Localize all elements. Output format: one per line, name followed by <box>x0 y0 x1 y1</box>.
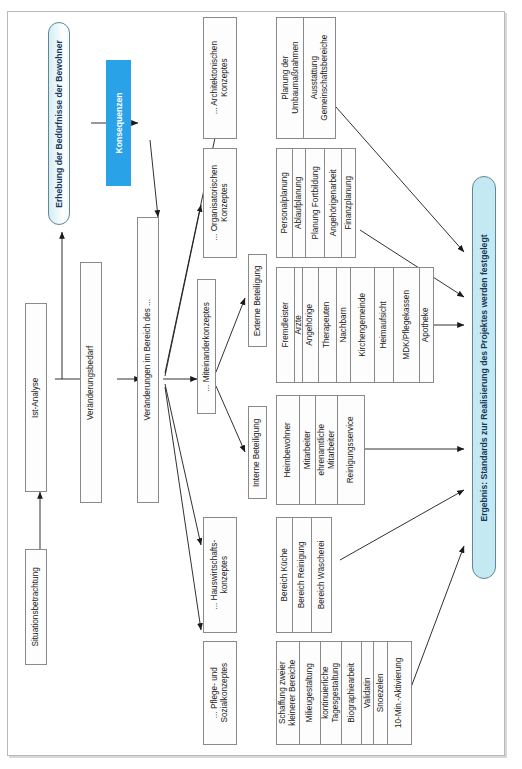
pflege-sozial-massnahmen-liste-item-label: Snoezelen <box>375 674 385 713</box>
architektur-massnahmen-gruppe-item-label: Ausstattung Gemeinschaftsbereiche <box>310 35 329 121</box>
externe-beteiligung-liste-item-label: Angehörige <box>306 304 316 346</box>
pflege-sozial-massnahmen-liste-item-label: Schaffung zweier kleinerer Bereiche <box>278 660 297 726</box>
pflege-sozial-massnahmen-liste-item[interactable]: kontinuierliche Tagesgestaltung <box>321 642 342 744</box>
organisation-massnahmen-gruppe-item[interactable]: Angehörigenarbeit <box>325 149 342 257</box>
node-externe-beteiligung[interactable]: Externe Beteiligung <box>248 254 267 347</box>
externe-beteiligung-liste-item-label: Apotheke <box>422 308 432 343</box>
externe-beteiligung-liste-item[interactable]: Fremdleister <box>277 268 295 382</box>
node-konsequenzen-label: Konsequenzen <box>114 92 124 153</box>
group-pflege-sozial-massnahmen[interactable]: Schaffung zweier kleinerer BereicheMilie… <box>276 641 412 745</box>
node-situationsbetrachtung-label: Situationsbetrachtung <box>31 567 41 646</box>
externe-beteiligung-liste-item-label: Kirchengemeinde <box>358 293 368 357</box>
node-ergebnis[interactable]: Ergebnis: Standards zur Realisierung des… <box>472 176 496 579</box>
pflege-sozial-massnahmen-liste-item[interactable]: Biographiearbeit <box>342 642 363 744</box>
interne-beteiligung-liste-item-label: Mitarbeiter <box>303 431 313 470</box>
externe-beteiligung-liste-item-label: Heimaufsicht <box>379 301 389 348</box>
organisation-massnahmen-gruppe-item-label: Personalplanung <box>280 172 290 233</box>
hauswirtschaft-bereiche-liste-item-label: Bereich Reinigung <box>297 542 307 609</box>
externe-beteiligung-liste-item-label: Nachbarn <box>339 307 349 343</box>
node-erhebung-label: Erhebung der Bedürfnisse der Bewohner <box>54 40 64 208</box>
organisation-massnahmen-gruppe-item[interactable]: Planung Fortbildung <box>306 149 325 257</box>
interne-beteiligung-liste-item[interactable]: Heimbewohner <box>277 396 300 504</box>
interne-beteiligung-liste-item-label: Heimbewohner <box>283 422 293 477</box>
organisation-massnahmen-gruppe-item-label: Finanzplanung <box>344 176 354 230</box>
externe-beteiligung-liste-item[interactable]: Angehörige <box>303 268 319 382</box>
interne-beteiligung-liste-item[interactable]: Mitarbeiter <box>300 396 316 504</box>
node-miteinanderkonzept-label: ... Miteinanderkonzeptes <box>202 302 212 391</box>
externe-beteiligung-liste-item-label: Ärzte <box>295 315 303 334</box>
externe-beteiligung-liste-item[interactable]: MDK/Pflegekassen <box>394 268 421 382</box>
organisation-massnahmen-gruppe-item[interactable]: Finanzplanung <box>342 149 355 257</box>
diagram-canvas: Erhebung der Bedürfnisse der Bewohner Ko… <box>0 0 522 769</box>
architektur-massnahmen-gruppe-item[interactable]: Ausstattung Gemeinschaftsbereiche <box>304 18 335 138</box>
externe-beteiligung-liste-item[interactable]: Nachbarn <box>337 268 351 382</box>
externe-beteiligung-liste-item[interactable]: Apotheke <box>420 268 433 382</box>
pflege-sozial-massnahmen-liste-item[interactable]: Validatin <box>362 642 373 744</box>
hauswirtschaft-bereiche-liste-item-label: Bereich Wäscherei <box>317 541 327 610</box>
node-interne-beteiligung-label: Interne Beteiligung <box>253 418 263 486</box>
hauswirtschaft-bereiche-liste-item[interactable]: Bereich Reinigung <box>293 518 312 632</box>
group-hauswirtschaft-bereiche[interactable]: Bereich KücheBereich ReinigungBereich Wä… <box>276 517 332 633</box>
pflege-sozial-massnahmen-liste-item-label: kontinuierliche Tagesgestaltung <box>321 663 340 723</box>
pflege-sozial-massnahmen-liste-item-label: Biographiearbeit <box>347 663 357 723</box>
organisation-massnahmen-gruppe-item-label: Angehörigenarbeit <box>328 170 338 237</box>
node-veraenderungsbedarf[interactable]: Veränderungsbedarf <box>80 262 102 503</box>
externe-beteiligung-liste-item[interactable]: Ärzte <box>295 268 303 382</box>
externe-beteiligung-liste-item-label: MDK/Pflegekassen <box>402 290 412 360</box>
node-ergebnis-label: Ergebnis: Standards zur Realisierung des… <box>479 234 489 521</box>
node-pflege-sozial-konzept[interactable]: ... Pflege- und Sozialkonzeptes <box>203 641 237 745</box>
pflege-sozial-massnahmen-liste-item[interactable]: 10-Min.-Aktivierung <box>388 642 411 744</box>
node-externe-beteiligung-label: Externe Beteiligung <box>253 265 263 336</box>
group-architektur-massnahmen[interactable]: Planung der UmbaumaßnahmenAusstattung Ge… <box>276 17 336 139</box>
group-externe-beteiligung[interactable]: FremdleisterÄrzteAngehörigeTherapeutenNa… <box>276 267 434 383</box>
node-architektonisches-konzept-label: ... Architektonischen Konzeptes <box>210 41 229 114</box>
node-veraenderungen-bereich[interactable]: Veränderungen im Bereich des ... <box>137 217 159 503</box>
hauswirtschaft-bereiche-liste-item-label: Bereich Küche <box>280 548 290 601</box>
node-miteinanderkonzept[interactable]: ... Miteinanderkonzeptes <box>197 279 216 414</box>
hauswirtschaft-bereiche-liste-item[interactable]: Bereich Küche <box>277 518 293 632</box>
pflege-sozial-massnahmen-liste-item-label: 10-Min.-Aktivierung <box>394 658 404 729</box>
interne-beteiligung-liste-item-label: ehrenamtliche Mitarbeiter <box>317 424 336 475</box>
externe-beteiligung-liste-item-label: Fremdleister <box>281 302 291 348</box>
node-ist-analyse-label: Ist-Analyse <box>31 377 41 418</box>
node-architektonisches-konzept[interactable]: ... Architektonischen Konzeptes <box>203 17 237 139</box>
node-veraenderungen-bereich-label: Veränderungen im Bereich des ... <box>143 299 153 421</box>
organisation-massnahmen-gruppe-item[interactable]: Personalplanung <box>277 149 293 257</box>
externe-beteiligung-liste-item[interactable]: Kirchengemeinde <box>351 268 375 382</box>
node-veraenderungsbedarf-label: Veränderungsbedarf <box>86 345 96 419</box>
node-hauswirtschaftskonzept-label: ... Hauswirtschafts- konzeptes <box>210 540 229 610</box>
organisation-massnahmen-gruppe-item-label: Ablaufplanung <box>294 177 304 229</box>
pflege-sozial-massnahmen-liste-item-label: Validatin <box>363 678 373 709</box>
pflege-sozial-massnahmen-liste-item[interactable]: Milieugestaltung <box>300 642 321 744</box>
node-hauswirtschaftskonzept[interactable]: ... Hauswirtschafts- konzeptes <box>203 517 237 633</box>
pflege-sozial-massnahmen-liste-item-label: Milieugestaltung <box>305 663 315 722</box>
interne-beteiligung-liste-item-label: Reinigungsservice <box>346 417 356 484</box>
group-interne-beteiligung[interactable]: HeimbewohnerMitarbeiterehrenamtliche Mit… <box>276 395 365 505</box>
organisation-massnahmen-gruppe-item-label: Planung Fortbildung <box>310 166 320 239</box>
node-pflege-sozial-konzept-label: ... Pflege- und Sozialkonzeptes <box>210 663 229 723</box>
node-konsequenzen[interactable]: Konsequenzen <box>106 60 131 186</box>
externe-beteiligung-liste-item[interactable]: Heimaufsicht <box>375 268 393 382</box>
pflege-sozial-massnahmen-liste-item[interactable]: Schaffung zweier kleinerer Bereiche <box>277 642 300 744</box>
hauswirtschaft-bereiche-liste-item[interactable]: Bereich Wäscherei <box>312 518 331 632</box>
organisation-massnahmen-gruppe-item[interactable]: Ablaufplanung <box>293 149 307 257</box>
externe-beteiligung-liste-item-label: Therapeuten <box>323 302 333 348</box>
node-ist-analyse[interactable]: Ist-Analyse <box>25 303 47 492</box>
externe-beteiligung-liste-item[interactable]: Therapeuten <box>319 268 337 382</box>
architektur-massnahmen-gruppe-item[interactable]: Planung der Umbaumaßnahmen <box>277 18 304 138</box>
node-situationsbetrachtung[interactable]: Situationsbetrachtung <box>25 549 47 665</box>
architektur-massnahmen-gruppe-item-label: Planung der Umbaumaßnahmen <box>280 42 299 114</box>
pflege-sozial-massnahmen-liste-item[interactable]: Snoezelen <box>374 642 388 744</box>
interne-beteiligung-liste-item[interactable]: ehrenamtliche Mitarbeiter <box>316 396 337 504</box>
group-organisation-massnahmen[interactable]: PersonalplanungAblaufplanungPlanung Fort… <box>276 148 356 258</box>
node-organisatorisches-konzept[interactable]: ... Organisatorischen Konzeptes <box>203 148 237 258</box>
node-organisatorisches-konzept-label: ... Organisatorischen Konzeptes <box>210 165 229 241</box>
node-erhebung-beduerfnisse[interactable]: Erhebung der Bedürfnisse der Bewohner <box>48 22 70 225</box>
node-interne-beteiligung[interactable]: Interne Beteiligung <box>248 406 267 499</box>
interne-beteiligung-liste-item[interactable]: Reinigungsservice <box>338 396 365 504</box>
